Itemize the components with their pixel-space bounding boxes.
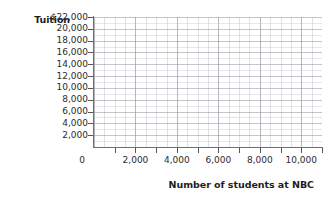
y-tick-mark <box>88 88 93 89</box>
y-tick-label: $22,000 <box>40 13 88 22</box>
y-tick-mark <box>88 76 93 77</box>
tuition-vs-students-chart: Tuition $22,00020,00018,00016,00014,0001… <box>0 0 333 205</box>
x-tick-mark <box>239 148 240 153</box>
y-tick-label: 6,000 <box>40 107 88 116</box>
x-tick-label: 10,000 <box>286 156 318 165</box>
x-tick-label: 4,000 <box>164 156 190 165</box>
y-tick-label: 16,000 <box>40 48 88 57</box>
y-tick-label: 2,000 <box>40 131 88 140</box>
x-tick-mark <box>322 148 323 153</box>
y-tick-mark <box>88 41 93 42</box>
x-tick-mark <box>198 148 199 153</box>
x-tick-mark <box>156 148 157 153</box>
y-tick-mark <box>88 123 93 124</box>
y-tick-mark <box>88 52 93 53</box>
y-tick-label: 4,000 <box>40 119 88 128</box>
y-tick-label: 20,000 <box>40 24 88 33</box>
x-axis-tick-labels: 02,0004,0006,0008,00010,000 <box>0 154 333 168</box>
y-tick-mark <box>88 100 93 101</box>
x-tick-mark <box>301 148 302 153</box>
y-tick-mark <box>88 64 93 65</box>
x-tick-label: 2,000 <box>123 156 149 165</box>
y-tick-mark <box>88 112 93 113</box>
y-tick-label: 14,000 <box>40 60 88 69</box>
x-tick-mark <box>218 148 219 153</box>
y-tick-label: 12,000 <box>40 72 88 81</box>
y-tick-mark <box>88 29 93 30</box>
x-axis-line <box>93 147 323 148</box>
x-tick-mark <box>135 148 136 153</box>
y-tick-label: 10,000 <box>40 83 88 92</box>
x-tick-mark <box>260 148 261 153</box>
x-origin-label: 0 <box>79 156 85 165</box>
y-tick-mark <box>88 17 93 18</box>
x-tick-mark <box>177 148 178 153</box>
y-axis-tick-labels: $22,00020,00018,00016,00014,00012,00010,… <box>40 17 88 147</box>
x-tick-mark <box>115 148 116 153</box>
x-tick-mark <box>281 148 282 153</box>
y-tick-mark <box>88 135 93 136</box>
y-tick-label: 18,000 <box>40 36 88 45</box>
x-tick-label: 8,000 <box>247 156 273 165</box>
y-tick-label: 8,000 <box>40 95 88 104</box>
x-axis-title: Number of students at NBC <box>0 179 322 190</box>
plot-area-grid <box>94 17 322 147</box>
x-tick-label: 6,000 <box>205 156 231 165</box>
